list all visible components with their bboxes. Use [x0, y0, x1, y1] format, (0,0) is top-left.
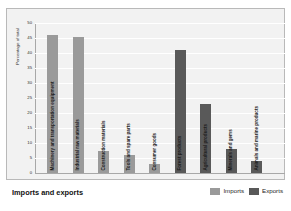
y-axis-tick-label: 45: [27, 36, 32, 40]
bar-group: Machinery and transportation equipmentIn…: [35, 23, 285, 174]
y-axis-tick-label: 15: [27, 126, 32, 130]
bar-category-label: Forest products: [178, 136, 183, 171]
legend-item[interactable]: Imports: [210, 188, 244, 195]
y-axis-tick-label: 30: [27, 81, 32, 85]
bar-category-label: Machinery and transportation equipment: [50, 82, 55, 171]
chart-title: Imports and exports: [12, 189, 83, 196]
y-axis-tick-label: 0: [30, 171, 32, 175]
bar-category-label: Minerals and gems: [229, 130, 234, 171]
bar-category-label: Industrial raw materials: [76, 120, 81, 171]
chart-legend: ImportsExports: [210, 188, 283, 195]
legend-label: Imports: [223, 188, 244, 194]
y-axis-tick-label: 10: [27, 141, 32, 145]
legend-swatch: [249, 188, 259, 195]
plot-inner: 05101520253035404550 Machinery and trans…: [35, 23, 285, 174]
y-axis-tick-label: 25: [27, 96, 32, 100]
legend-swatch: [210, 188, 220, 195]
plot-area: Percentage of total 05101520253035404550…: [6, 8, 285, 180]
bar-category-label: Consumer goods: [152, 133, 157, 171]
bar-category-label: Animals and marine products: [254, 106, 259, 171]
y-axis-tick-label: 35: [27, 66, 32, 70]
y-axis-tick-label: 40: [27, 51, 32, 55]
legend-item[interactable]: Exports: [249, 188, 283, 195]
bar-category-label: Tools and spare parts: [127, 124, 132, 171]
legend-label: Exports: [262, 188, 283, 194]
y-axis-tick-label: 50: [27, 21, 32, 25]
y-axis-tick-label: 20: [27, 111, 32, 115]
bar-category-label: Construction materials: [101, 121, 106, 171]
chart-footer: Imports and exports ImportsExports: [6, 184, 285, 206]
y-axis-tick-label: 5: [30, 156, 32, 160]
y-axis-title: Percentage of total: [16, 28, 20, 65]
chart-figure: Percentage of total 05101520253035404550…: [0, 0, 291, 211]
bar-category-label: Agricultural products: [203, 124, 208, 171]
